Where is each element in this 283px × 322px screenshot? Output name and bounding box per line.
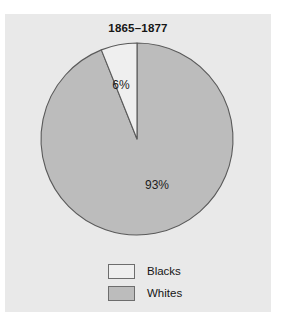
legend-item-whites[interactable]: Whites [108,282,228,304]
legend-swatch-blacks [108,264,135,279]
figure-panel: 1865–1877 6% 93% Blacks Whites [5,14,271,312]
pie-chart: 6% 93% [5,14,271,254]
chart-legend: Blacks Whites [108,260,228,304]
legend-item-blacks[interactable]: Blacks [108,260,228,282]
pie-slice-label-whites: 93% [145,178,169,192]
pie-slice-label-blacks: 6% [112,78,130,92]
legend-label-blacks: Blacks [147,265,181,277]
pie-chart-svg: 6% 93% [5,14,271,254]
legend-swatch-whites [108,286,135,301]
clipped-top-text [0,0,283,12]
legend-label-whites: Whites [147,287,182,299]
